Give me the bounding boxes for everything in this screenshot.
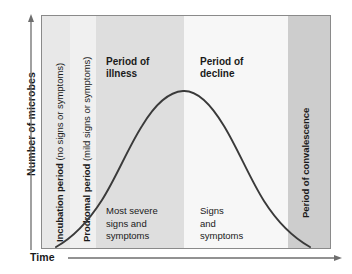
x-axis-arrow-icon <box>68 252 342 264</box>
disease-progression-figure: Number of microbes Time Incubation perio… <box>0 0 352 274</box>
x-axis-label: Time <box>30 251 55 263</box>
microbe-count-curve <box>42 16 330 248</box>
plot-area: Incubation period (no signs or symptoms)… <box>41 15 331 249</box>
y-axis-arrow-icon <box>27 14 35 250</box>
